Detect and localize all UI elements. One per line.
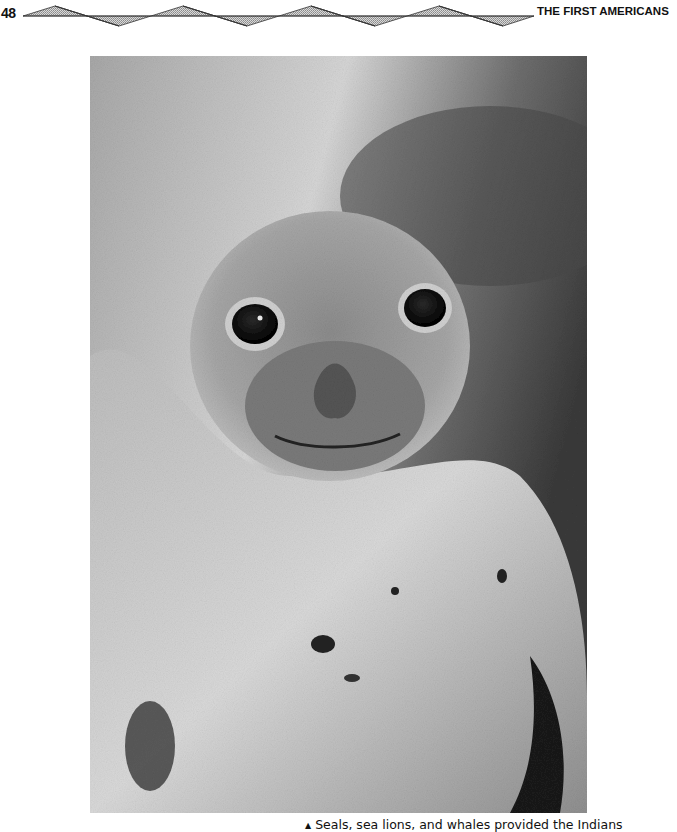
caption-text: Seals, sea lions, and whales provided th… [315, 817, 622, 832]
triangle-marker-icon: ▲ [305, 821, 311, 830]
zigzag-ornament [23, 4, 534, 28]
page-number: 48 [1, 5, 16, 21]
photo-caption: ▲Seals, sea lions, and whales provided t… [305, 817, 623, 832]
running-title: THE FIRST AMERICANS [537, 5, 669, 17]
seal-image [90, 56, 587, 813]
seal-photograph [90, 56, 587, 813]
